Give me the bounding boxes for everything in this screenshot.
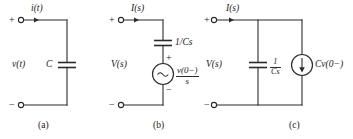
panel-b-schematic xyxy=(105,0,220,139)
panel-b-thevenin-equivalent: + − I(s) V(s) 1/Cs + − v(0−) s (b) xyxy=(105,0,220,139)
impedance-numerator-c: 1 xyxy=(270,58,281,67)
current-arrow-b xyxy=(134,18,139,23)
source-plus-sign-b: + xyxy=(166,53,172,63)
current-label-a: i(t) xyxy=(31,4,43,14)
source-value-fraction-b: v(0−) s xyxy=(176,66,199,86)
terminal-top-a xyxy=(18,17,23,22)
current-label-b: I(s) xyxy=(131,4,144,14)
panel-a-time-domain: + − i(t) v(t) C (a) xyxy=(0,0,110,139)
panel-a-schematic xyxy=(0,0,110,139)
current-label-c: I(s) xyxy=(226,4,239,14)
terminal-minus-sign-a: − xyxy=(9,100,15,110)
caption-c: (c) xyxy=(289,120,300,130)
terminal-bottom-c xyxy=(211,102,216,107)
caption-a: (a) xyxy=(38,120,49,130)
impedance-fraction-c: 1 Cs xyxy=(270,58,281,77)
source-denominator-b: s xyxy=(176,76,199,87)
current-arrow-a xyxy=(34,18,39,23)
terminal-top-b xyxy=(118,17,123,22)
source-numerator-b: v(0−) xyxy=(176,66,199,76)
terminal-minus-sign-c: − xyxy=(204,100,210,110)
terminal-bottom-b xyxy=(118,102,123,107)
capacitance-label-a: C xyxy=(46,60,52,70)
voltage-label-c: V(s) xyxy=(206,60,222,70)
voltage-label-a: v(t) xyxy=(12,60,25,70)
terminal-bottom-a xyxy=(18,102,23,107)
source-minus-sign-b: − xyxy=(166,85,172,95)
impedance-denominator-c: Cs xyxy=(270,67,281,77)
caption-b: (b) xyxy=(153,120,164,130)
terminal-minus-sign-b: − xyxy=(109,100,115,110)
terminal-plus-sign-c: + xyxy=(204,15,210,25)
impedance-label-b: 1/Cs xyxy=(175,38,192,48)
current-source-label-c: Cv(0−) xyxy=(315,60,343,70)
terminal-top-c xyxy=(211,17,216,22)
circuit-figure: + − i(t) v(t) C (a) xyxy=(0,0,353,139)
voltage-label-b: V(s) xyxy=(111,60,127,70)
terminal-plus-sign-b: + xyxy=(109,15,115,25)
terminal-plus-sign-a: + xyxy=(9,15,15,25)
panel-c-norton-equivalent: + − I(s) V(s) 1 Cs Cv(0−) (c) xyxy=(205,0,353,139)
current-arrow-c xyxy=(229,18,234,23)
